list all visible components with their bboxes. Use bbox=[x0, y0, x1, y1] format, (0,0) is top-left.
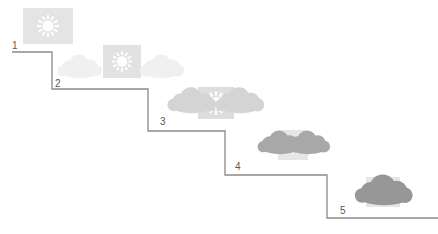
diagram-canvas: 1 2 3 4 5 bbox=[0, 0, 438, 234]
step-label-4: 4 bbox=[235, 162, 241, 172]
mostly-cloudy-icon bbox=[258, 129, 330, 163]
sun-with-light-clouds-icon bbox=[58, 44, 182, 86]
step-label-1: 1 bbox=[12, 41, 18, 51]
sun-clear-icon bbox=[22, 7, 74, 45]
overcast-icon bbox=[350, 176, 418, 210]
step-label-5: 5 bbox=[340, 206, 346, 216]
sun-with-medium-clouds-icon bbox=[170, 85, 262, 125]
step-label-2: 2 bbox=[55, 79, 61, 89]
step-label-3: 3 bbox=[160, 117, 166, 127]
